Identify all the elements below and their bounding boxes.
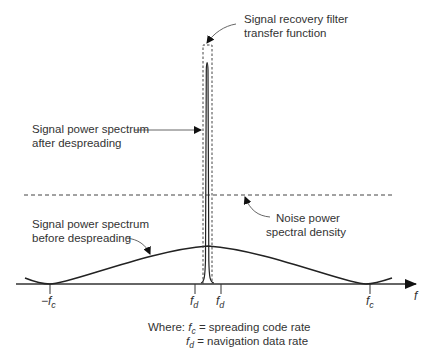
filter-label-line2: transfer function <box>244 26 326 40</box>
tick-label-minus-fc: −fc <box>41 294 56 310</box>
before-label-line2: before despreading <box>32 231 131 245</box>
after-label-line2: after despreading <box>32 136 122 150</box>
tick-label-fc: fc <box>366 294 374 310</box>
tick-label-fd: fd <box>216 294 224 310</box>
tick-label-minus-fd: fd <box>190 294 198 310</box>
legend-row-fd: fd = navigation data rate <box>186 334 308 352</box>
before-label-line1: Signal power spectrum <box>32 217 149 231</box>
after-label-line1: Signal power spectrum <box>32 122 149 136</box>
noise-label-line1: Noise power <box>276 211 340 225</box>
noise-label-line2: spectral density <box>266 225 346 239</box>
filter-pointer-arrow <box>207 24 236 43</box>
noise-pointer-arrow <box>245 197 270 217</box>
axis-label-f: f <box>414 289 417 303</box>
filter-label-line1: Signal recovery filter <box>244 12 348 26</box>
